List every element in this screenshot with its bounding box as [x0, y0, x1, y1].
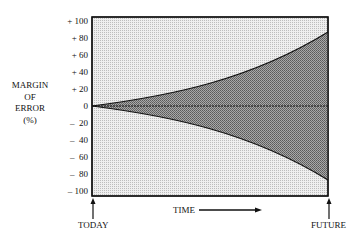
x-axis-title: TIME [173, 205, 195, 215]
future-arrow-icon [327, 198, 332, 219]
x-end-label: FUTURE [311, 220, 346, 230]
plot-area [0, 0, 361, 239]
today-arrow-icon [91, 198, 96, 219]
time-arrow-icon [199, 208, 262, 213]
x-start-label: TODAY [78, 220, 109, 230]
